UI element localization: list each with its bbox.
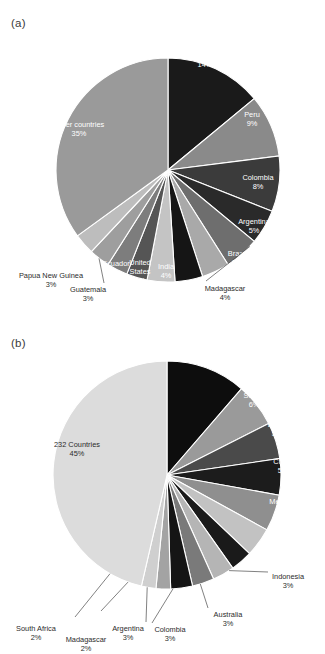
label-leader-line bbox=[101, 582, 128, 611]
pie-chart-a: Mexico14%Peru9%Colombia8%Argentina5%Braz… bbox=[0, 0, 325, 325]
slice-label: Madagascar4% bbox=[205, 284, 246, 302]
slice-label: Cuba3% bbox=[70, 244, 89, 262]
label-leader-line bbox=[146, 587, 147, 622]
slice-label: Russia11% bbox=[194, 350, 217, 368]
slice-label: Colombia3% bbox=[154, 625, 186, 643]
slice-label: Argentina3% bbox=[112, 624, 145, 642]
panel-b: (b) Russia11%UnitedStates6%Brazil5%China… bbox=[0, 325, 325, 654]
slice-label: South Africa2% bbox=[16, 624, 57, 642]
label-leader-line bbox=[200, 584, 208, 608]
slice-label: Mexico14% bbox=[193, 51, 216, 69]
slice-label: Australia3% bbox=[214, 610, 244, 628]
label-leader-line bbox=[229, 571, 268, 572]
slice-label: India4% bbox=[266, 531, 283, 549]
pie-chart-b: Russia11%UnitedStates6%Brazil5%China5%Me… bbox=[0, 325, 325, 654]
panel-a: (a) Mexico14%Peru9%Colombia8%Argentina5%… bbox=[0, 0, 325, 325]
slice-label: Indonesia3% bbox=[272, 572, 305, 590]
label-leader-line bbox=[75, 574, 110, 617]
slice-label: UnitedStates4% bbox=[129, 258, 150, 285]
slice-label: Guatemala3% bbox=[70, 285, 107, 303]
slice-label: Madagascar2% bbox=[66, 635, 107, 653]
label-leader-line bbox=[152, 589, 173, 623]
